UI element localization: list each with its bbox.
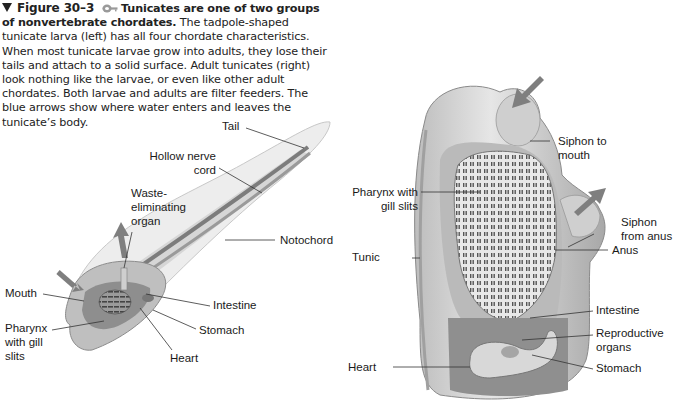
label-stomach-larva: Stomach (199, 324, 244, 338)
label-intestine-larva: Intestine (213, 299, 256, 313)
label-hollow-nerve-cord-1: Hollow nerve (144, 150, 216, 164)
water-in-arrow-larva (58, 272, 74, 286)
label-tunic: Tunic (352, 251, 380, 265)
label-siphon-anus-2: from anus (621, 230, 672, 244)
label-waste-3: organ (131, 215, 160, 229)
label-siphon-mouth-2: mouth (558, 149, 590, 163)
label-pharynx-adult-2: gill slits (330, 200, 418, 214)
label-waste-1: Waste- (131, 187, 167, 201)
tunicate-figure: Tail Hollow nerve cord Waste- eliminatin… (0, 0, 678, 409)
label-notochord: Notochord (280, 234, 333, 248)
label-pharynx-larva-2: with gill (5, 336, 43, 350)
label-hollow-nerve-cord-2: cord (144, 164, 216, 178)
label-tail: Tail (222, 120, 239, 134)
label-siphon-mouth-1: Siphon to (558, 135, 607, 149)
label-pharynx-larva-3: slits (5, 350, 25, 364)
label-intestine-adult: Intestine (596, 304, 639, 318)
label-pharynx-adult-1: Pharynx with (330, 186, 418, 200)
label-heart-larva: Heart (170, 352, 198, 366)
label-repro-2: organs (596, 341, 631, 355)
adult-drawing (415, 76, 606, 399)
label-stomach-adult: Stomach (596, 362, 641, 376)
label-anus: Anus (612, 244, 638, 258)
label-siphon-anus-1: Siphon (621, 216, 657, 230)
label-repro-1: Reproductive (596, 327, 664, 341)
label-mouth: Mouth (5, 287, 37, 301)
label-heart-adult: Heart (348, 361, 376, 375)
label-waste-2: eliminating (131, 201, 186, 215)
label-pharynx-larva-1: Pharynx (5, 322, 47, 336)
